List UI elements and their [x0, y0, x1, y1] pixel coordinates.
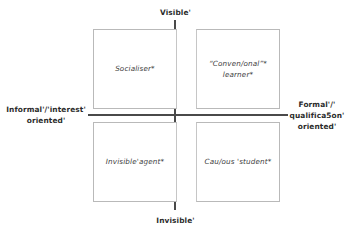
quadrant-label-cautious-student: Cau/ous 'student* [202, 156, 275, 167]
quadrant-diagram: Visible' Invisible' Informal'/'interest'… [0, 0, 351, 236]
axis-label-formal-qualification-oriented: Formal'/' qualifica5on' oriented' [283, 99, 351, 132]
quadrant-label-invisible-agent: Invisible'agent* [103, 156, 167, 167]
quadrant-label-socialiser: Socialiser* [112, 63, 158, 74]
axis-label-visible: Visible' [0, 7, 351, 18]
axis-label-invisible: Invisible' [0, 215, 351, 226]
quadrant-box-top-right: “Conven/onal”* learner* [196, 29, 280, 109]
quadrant-label-conventional-learner: “Conven/onal”* learner* [206, 58, 270, 80]
quadrant-box-bottom-left: Invisible'agent* [93, 122, 177, 202]
axis-label-informal-interest-oriented: Informal'/'interest' oriented' [2, 104, 90, 126]
horizontal-axis-line [88, 114, 288, 116]
quadrant-box-top-left: Socialiser* [93, 29, 177, 109]
quadrant-box-bottom-right: Cau/ous 'student* [196, 122, 280, 202]
